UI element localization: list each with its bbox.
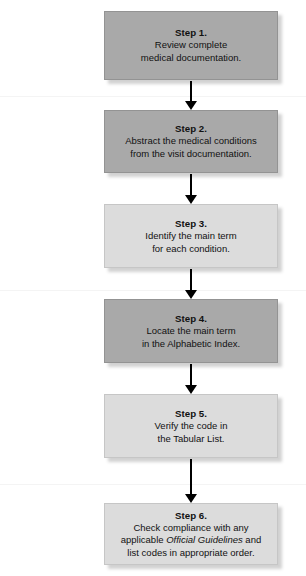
- step-title: Step 6.: [175, 509, 207, 522]
- arrow-head: [185, 290, 197, 299]
- flow-step-2: Step 2. Abstract the medical conditions …: [104, 110, 278, 173]
- step-title: Step 1.: [175, 26, 207, 39]
- step-title: Step 3.: [175, 217, 207, 230]
- step-text-line: the Tabular List.: [158, 433, 225, 446]
- official-guidelines-emphasis: Official Guidelines: [166, 534, 243, 545]
- arrow-head: [185, 195, 197, 204]
- step-text-line: medical documentation.: [141, 52, 241, 65]
- flowchart-diagram: Step 1. Review complete medical document…: [0, 0, 306, 576]
- step-text-line-italic: applicable Official Guidelines and: [121, 534, 261, 547]
- flow-step-6: Step 6. Check compliance with any applic…: [104, 503, 278, 565]
- step-text-line: in the Alphabetic Index.: [142, 338, 240, 351]
- scan-artifact-line: [0, 96, 306, 97]
- step-text-line: Verify the code in: [155, 420, 228, 433]
- step-text-line: list codes in appropriate order.: [127, 547, 254, 560]
- flow-step-1: Step 1. Review complete medical document…: [104, 11, 278, 80]
- flow-step-4: Step 4. Locate the main term in the Alph…: [104, 299, 278, 363]
- arrow-head: [185, 101, 197, 110]
- down-arrow-icon: [184, 81, 197, 110]
- arrow-shaft: [190, 174, 192, 195]
- step-text-line: Locate the main term: [146, 325, 235, 338]
- step-text-line: Identify the main term: [145, 230, 236, 243]
- step-text-line: Abstract the medical conditions: [125, 135, 256, 148]
- step-text-line: Review complete: [155, 39, 227, 52]
- down-arrow-icon: [184, 459, 197, 503]
- scan-artifact-line: [0, 290, 306, 291]
- arrow-shaft: [190, 364, 192, 385]
- step-text-line: Check compliance with any: [133, 522, 248, 535]
- down-arrow-icon: [184, 269, 197, 299]
- step-text-line: from the visit documentation.: [130, 148, 251, 161]
- arrow-shaft: [190, 269, 192, 290]
- step-text-line: for each condition.: [152, 243, 230, 256]
- arrow-head: [185, 494, 197, 503]
- arrow-head: [185, 385, 197, 394]
- flow-step-5: Step 5. Verify the code in the Tabular L…: [104, 394, 278, 458]
- down-arrow-icon: [184, 364, 197, 394]
- step-title: Step 4.: [175, 312, 207, 325]
- flow-step-3: Step 3. Identify the main term for each …: [104, 204, 278, 268]
- arrow-shaft: [190, 81, 192, 101]
- step-title: Step 2.: [175, 122, 207, 135]
- step-text-suffix: and: [243, 534, 262, 545]
- scan-artifact-line: [0, 484, 306, 485]
- step-text-prefix: applicable: [121, 534, 166, 545]
- down-arrow-icon: [184, 174, 197, 204]
- arrow-shaft: [190, 459, 192, 494]
- step-title: Step 5.: [175, 407, 207, 420]
